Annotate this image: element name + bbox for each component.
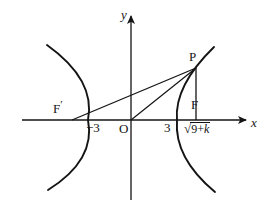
- prime-mark: ′: [60, 98, 62, 110]
- point-label-f-prime: F′: [53, 99, 63, 115]
- segment-o-p: [131, 68, 196, 120]
- x-axis-label: x: [251, 116, 257, 129]
- radical-inner-k: k: [204, 122, 209, 136]
- diagram-canvas: [0, 0, 273, 213]
- tick-label-3: 3: [164, 121, 171, 134]
- hyperbola-figure: y x P O F F′ −3 3 √9+k: [0, 0, 273, 213]
- radical-inner: 9+k: [190, 122, 210, 135]
- point-label-f: F: [191, 98, 198, 111]
- point-label-p: P: [189, 50, 196, 63]
- y-axis-label: y: [121, 8, 127, 21]
- origin-label: O: [119, 122, 128, 135]
- radical-group: √9+k: [184, 122, 210, 135]
- tick-label-minus-3: −3: [86, 121, 100, 134]
- tick-label-focus-radical: √9+k: [184, 122, 210, 135]
- hyperbola-left-branch: [47, 45, 89, 190]
- radical-inner-a: 9+: [191, 122, 204, 136]
